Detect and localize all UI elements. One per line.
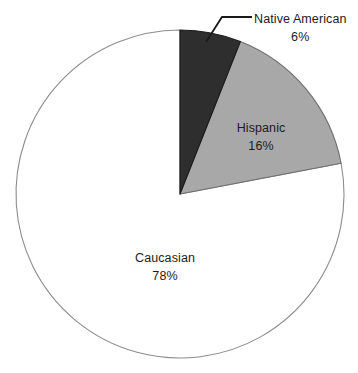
slice-label-caucasian-name: Caucasian bbox=[135, 251, 195, 265]
slice-label-hispanic-name: Hispanic bbox=[237, 121, 286, 135]
pie-chart: Native American 6% Hispanic 16% Caucasia… bbox=[0, 0, 358, 373]
slice-label-native-american-value: 6% bbox=[254, 30, 347, 44]
slice-label-native-american: Native American 6% bbox=[254, 9, 347, 44]
slice-label-hispanic-value: 16% bbox=[231, 139, 291, 153]
slice-label-caucasian-value: 78% bbox=[132, 269, 198, 283]
slice-label-hispanic: Hispanic 16% bbox=[231, 118, 291, 153]
slice-label-caucasian: Caucasian 78% bbox=[132, 248, 198, 283]
slice-label-native-american-name: Native American bbox=[254, 12, 347, 26]
pie-chart-canvas bbox=[0, 0, 358, 373]
